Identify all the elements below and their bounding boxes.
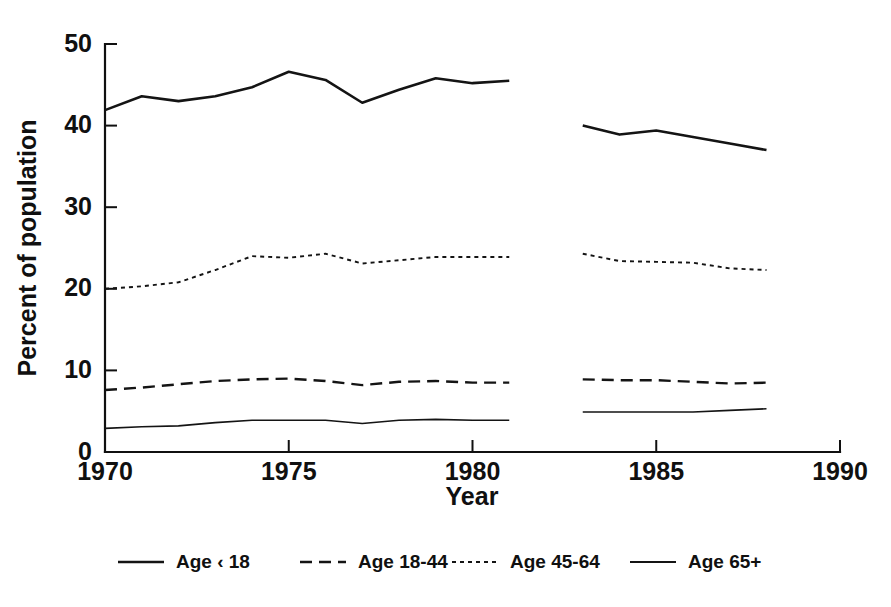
series-line-age-65 (583, 409, 767, 412)
legend-label: Age ‹ 18 (176, 551, 250, 572)
x-axis-ticks: 19701975198019851990 (77, 440, 868, 485)
series-line-age-18-44 (583, 379, 767, 383)
legend-label: Age 18-44 (358, 551, 448, 572)
series-line-age-45-64 (105, 254, 509, 289)
chart-axes (105, 44, 840, 452)
series-line-age-18 (105, 72, 509, 110)
y-tick-label: 10 (64, 355, 92, 383)
series-line-age-18 (583, 126, 767, 150)
legend-label: Age 45-64 (510, 551, 600, 572)
y-axis-ticks: 01020304050 (64, 29, 117, 465)
legend-label: Age 65+ (688, 551, 761, 572)
x-tick-label: 1970 (77, 457, 133, 485)
chart-figure: 01020304050 19701975198019851990 Year Pe… (0, 0, 891, 607)
chart-legend: Age ‹ 18Age 18-44Age 45-64Age 65+ (118, 551, 761, 572)
y-axis-title: Percent of population (13, 120, 41, 377)
series-line-age-18-44 (105, 379, 509, 390)
x-tick-label: 1980 (445, 457, 501, 485)
y-tick-label: 30 (64, 192, 92, 220)
x-axis-title: Year (446, 482, 499, 510)
y-tick-label: 40 (64, 110, 92, 138)
x-tick-label: 1975 (261, 457, 317, 485)
y-tick-label: 50 (64, 29, 92, 57)
y-tick-label: 20 (64, 273, 92, 301)
chart-series-layer (105, 72, 767, 429)
line-chart: 01020304050 19701975198019851990 Year Pe… (0, 0, 891, 607)
x-tick-label: 1990 (812, 457, 868, 485)
series-line-age-45-64 (583, 254, 767, 270)
x-tick-label: 1985 (628, 457, 684, 485)
series-line-age-65 (105, 419, 509, 428)
